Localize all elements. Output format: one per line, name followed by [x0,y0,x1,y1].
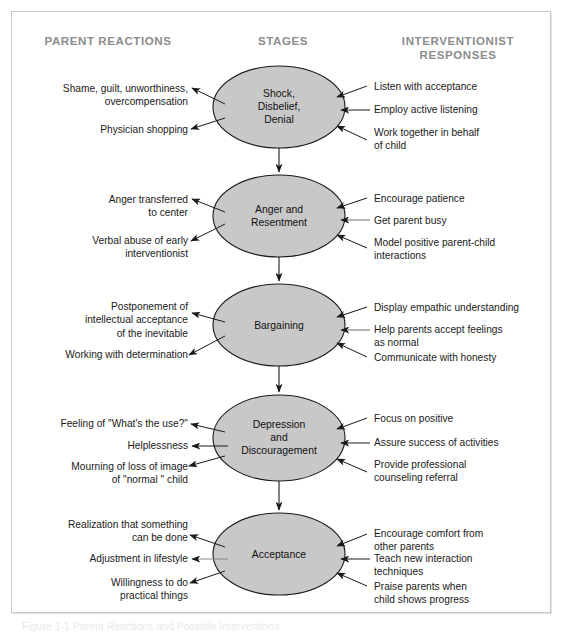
parent-reaction-bargaining-2: Working with determination [20,348,188,361]
parent-reaction-anger-2: Verbal abuse of early interventionist [20,234,188,261]
arrow-bargaining-parent-2 [189,336,225,355]
parent-reaction-acceptance-3: Willingness to do practical things [20,576,188,603]
stage-ellipse-depression[interactable] [213,395,345,481]
interventionist-response-acceptance-3: Praise parents when child shows progress [374,580,549,607]
parent-reaction-bargaining-1: Postponement of intellectual acceptance … [20,300,188,340]
interventionist-response-shock-2: Employ active listening [374,103,549,116]
stage-ellipse-anger[interactable] [213,175,345,257]
arrow-bargaining-response-3 [337,343,367,357]
interventionist-response-anger-2: Get parent busy [374,214,549,227]
parent-reaction-shock-2: Physician shopping [20,123,188,136]
column-heading-parent-reactions: PARENT REACTIONS [18,34,198,48]
arrow-acceptance-parent-3 [190,571,225,583]
interventionist-response-depression-1: Focus on positive [374,412,549,425]
interventionist-response-bargaining-3: Communicate with honesty [374,351,549,364]
interventionist-response-bargaining-2: Help parents accept feelings as normal [374,323,549,350]
interventionist-response-acceptance-1: Encourage comfort from other parents [374,527,549,554]
parent-reaction-depression-3: Mourning of loss of image of "normal " c… [20,460,188,487]
column-heading-interventionist-responses: INTERVENTIONIST RESPONSES [368,34,548,62]
parent-reaction-anger-1: Anger transferred to center [20,193,188,220]
stage-ellipse-shock[interactable] [213,66,345,148]
interventionist-response-depression-2: Assure success of activities [374,436,549,449]
figure-frame: PARENT REACTIONS STAGES INTERVENTIONIST … [11,11,551,613]
parent-reaction-acceptance-2: Adjustment in lifestyle [20,552,188,565]
arrow-anger-response-3 [337,235,367,248]
figure-caption: Figure 1-1 Parent Reactions and Possible… [22,620,542,633]
stage-ellipse-acceptance[interactable] [213,513,345,595]
arrow-depression-response-3 [337,459,367,472]
stage-ellipse-bargaining[interactable] [213,284,345,366]
arrow-shock-response-3 [337,126,367,140]
column-heading-stages: STAGES [208,34,358,48]
arrow-depression-parent-3 [189,456,225,466]
parent-reaction-depression-2: Helplessness [20,439,188,452]
arrow-shock-response-1 [337,86,367,97]
interventionist-response-shock-3: Work together in behalf of child [374,126,549,153]
parent-reaction-acceptance-1: Realization that something can be done [20,518,188,545]
parent-reaction-depression-1: Feeling of "What's the use?" [20,417,188,430]
interventionist-response-depression-3: Provide professional counseling referral [374,458,549,485]
interventionist-response-shock-1: Listen with acceptance [374,80,549,93]
interventionist-response-bargaining-1: Display empathic understanding [374,301,554,314]
arrow-acceptance-response-3 [337,573,367,586]
parent-reaction-shock-1: Shame, guilt, unworthiness, overcompensa… [20,82,188,109]
interventionist-response-anger-3: Model positive parent-child interactions [374,236,549,263]
interventionist-response-acceptance-2: Teach new interaction techniques [374,552,549,579]
interventionist-response-anger-1: Encourage patience [374,192,549,205]
